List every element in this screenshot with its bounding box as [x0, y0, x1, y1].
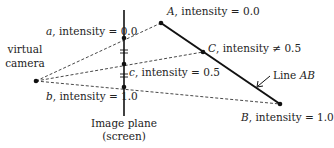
- line-AB-arrow: [258, 76, 270, 86]
- label-A: A, intensity = 0.0: [167, 6, 260, 17]
- image-plane-label-line2: (screen): [89, 131, 159, 142]
- label-C-text: , intensity ≠ 0.5: [216, 42, 301, 54]
- label-c: c, intensity = 0.5: [129, 67, 220, 78]
- label-b-name: b: [46, 90, 53, 102]
- label-line-AB: Line AB: [273, 70, 315, 81]
- point-A: [159, 21, 164, 26]
- label-A-name: A: [167, 5, 175, 17]
- camera-label: virtual camera: [0, 44, 50, 68]
- label-A-text: , intensity = 0.0: [175, 5, 260, 17]
- label-B-name: B: [241, 111, 249, 123]
- label-line-AB-prefix: Line: [273, 69, 300, 81]
- label-C: C, intensity ≠ 0.5: [208, 43, 301, 54]
- point-b: [122, 85, 127, 90]
- camera-label-line1: virtual: [0, 44, 50, 55]
- point-B: [278, 102, 283, 107]
- camera-point: [34, 79, 39, 84]
- point-C: [201, 50, 206, 55]
- label-a-text: , intensity = 0.0: [52, 25, 137, 37]
- label-b-text: , intensity = 1.0: [53, 90, 138, 102]
- label-C-name: C: [208, 42, 216, 54]
- label-line-AB-name: AB: [300, 69, 315, 81]
- image-plane-label-line1: Image plane: [89, 118, 159, 129]
- line-AB: [161, 23, 280, 104]
- camera-label-line2: camera: [0, 58, 50, 69]
- label-a: a, intensity = 0.0: [46, 26, 137, 37]
- label-B: B, intensity = 1.0: [241, 112, 334, 123]
- label-B-text: , intensity = 1.0: [249, 111, 334, 123]
- image-plane-label: Image plane (screen): [89, 118, 159, 141]
- point-c: [122, 62, 127, 67]
- label-b: b, intensity = 1.0: [46, 91, 138, 102]
- label-c-text: , intensity = 0.5: [135, 66, 220, 78]
